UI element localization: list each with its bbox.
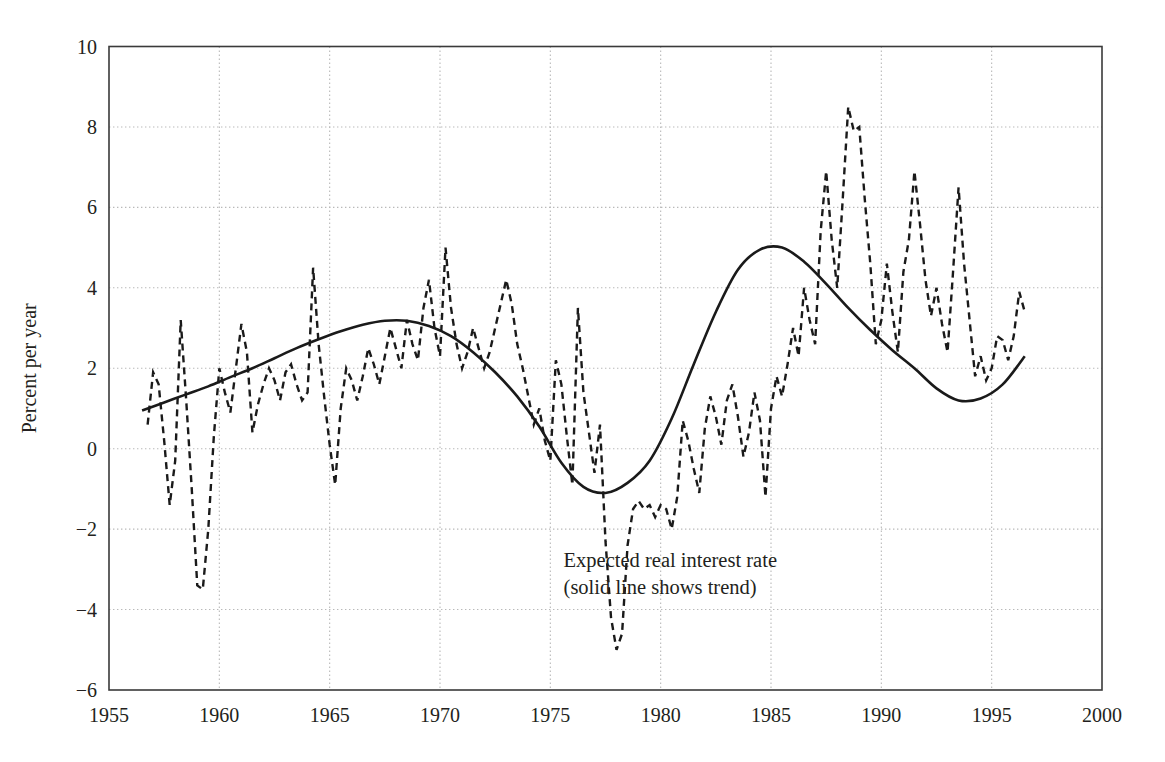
x-tick-label: 1990	[861, 704, 901, 726]
y-tick-label: 6	[87, 196, 97, 218]
x-tick-label: 1995	[972, 704, 1012, 726]
x-tick-label: 1955	[89, 704, 129, 726]
chart-canvas: 1955196019651970197519801985199019952000…	[0, 0, 1165, 762]
y-tick-label: −2	[76, 518, 97, 540]
y-tick-label: −4	[76, 599, 97, 621]
y-axis-title-text: Percent per year	[18, 303, 41, 433]
y-axis-title: Percent per year	[18, 303, 41, 433]
x-tick-label: 1985	[751, 704, 791, 726]
x-tick-label: 1965	[310, 704, 350, 726]
y-tick-label: 2	[87, 357, 97, 379]
x-tick-label: 1970	[420, 704, 460, 726]
chart-annotations: Expected real interest rate(solid line s…	[564, 549, 777, 599]
x-tick-label: 1960	[199, 704, 239, 726]
x-axis-tick-labels: 1955196019651970197519801985199019952000	[89, 704, 1122, 726]
x-tick-label: 1980	[641, 704, 681, 726]
annotation-line: (solid line shows trend)	[564, 576, 757, 599]
y-tick-label: 4	[87, 277, 97, 299]
x-tick-label: 2000	[1082, 704, 1122, 726]
x-tick-label: 1975	[530, 704, 570, 726]
y-tick-label: 10	[77, 36, 97, 58]
y-axis-tick-labels: −6−4−20246810	[76, 36, 97, 702]
y-tick-label: 0	[87, 438, 97, 460]
y-tick-label: 8	[87, 116, 97, 138]
chart-figure: 1955196019651970197519801985199019952000…	[0, 0, 1165, 762]
annotation-line: Expected real interest rate	[564, 549, 777, 572]
y-tick-label: −6	[76, 679, 97, 701]
series-line-trend	[142, 246, 1025, 493]
